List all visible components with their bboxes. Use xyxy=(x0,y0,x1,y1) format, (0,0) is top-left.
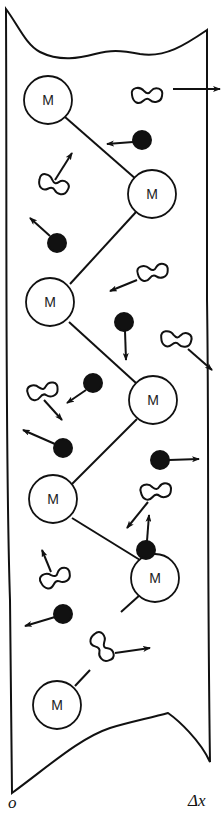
svg-text:M: M xyxy=(44,294,56,310)
svg-text:M: M xyxy=(42,92,54,108)
monomer-5: M xyxy=(29,475,77,523)
monomer-2: M xyxy=(128,170,176,218)
axis-label-delta-x: Δx xyxy=(188,791,206,811)
monomer-4: M xyxy=(129,376,177,424)
monomer-6: M xyxy=(131,554,179,602)
dumbbell-molecules xyxy=(26,88,220,664)
axis-label-origin: o xyxy=(8,793,17,813)
svg-text:M: M xyxy=(51,697,63,713)
svg-text:M: M xyxy=(146,186,158,202)
monomer-7: M xyxy=(33,681,81,729)
monomer-1: M xyxy=(24,76,72,124)
svg-text:M: M xyxy=(149,570,161,586)
membrane-diagram: M M M M M M M xyxy=(0,0,223,819)
monomer-3: M xyxy=(26,278,74,326)
svg-text:M: M xyxy=(147,392,159,408)
svg-text:M: M xyxy=(47,491,59,507)
